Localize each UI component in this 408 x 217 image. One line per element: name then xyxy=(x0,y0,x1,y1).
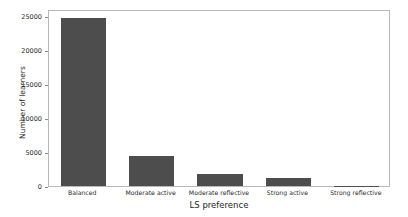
x-tick-label: Moderate active xyxy=(125,190,175,196)
bar-moderate-reflective xyxy=(197,174,242,186)
x-tick-label: Strong active xyxy=(267,190,308,196)
y-tick-mark xyxy=(45,187,48,188)
y-tick-label: 0 xyxy=(2,184,42,191)
y-tick-mark xyxy=(45,85,48,86)
y-axis-label: Number of learners xyxy=(18,43,27,163)
y-tick-mark xyxy=(45,17,48,18)
x-tick-label: Balanced xyxy=(68,190,97,196)
y-tick-label: 5000 xyxy=(2,150,42,157)
y-tick-label: 20000 xyxy=(2,48,42,55)
plot-area xyxy=(48,10,390,187)
bar-balanced xyxy=(61,18,106,186)
x-axis-label: LS preference xyxy=(48,200,390,210)
y-tick-label: 25000 xyxy=(2,14,42,21)
y-tick-label: 15000 xyxy=(2,82,42,89)
bars-container xyxy=(49,11,389,186)
y-tick-mark xyxy=(45,51,48,52)
chart-figure: Number of learners 050001000015000200002… xyxy=(0,0,408,217)
y-tick-mark xyxy=(45,153,48,154)
y-tick-label: 10000 xyxy=(2,116,42,123)
y-tick-mark xyxy=(45,119,48,120)
bar-moderate-active xyxy=(129,156,174,186)
x-tick-label: Moderate reflective xyxy=(189,190,249,196)
x-tick-label: Strong reflective xyxy=(330,190,381,196)
bar-strong-active xyxy=(266,178,311,186)
